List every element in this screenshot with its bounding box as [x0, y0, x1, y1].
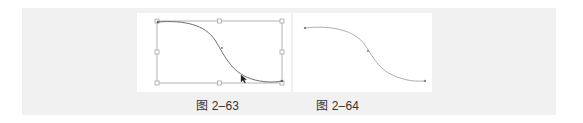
handle-bottom-middle[interactable]	[218, 81, 222, 85]
handle-middle-right[interactable]	[280, 50, 284, 54]
handle-top-middle[interactable]	[218, 19, 222, 23]
figure-caption-2-64: 图 2–64	[316, 96, 359, 113]
s-curve-path-selected[interactable]	[158, 22, 282, 82]
curve-figures	[0, 0, 583, 123]
transform-bounding-box[interactable]	[155, 19, 284, 85]
anchor-point[interactable]	[221, 47, 223, 49]
handle-bottom-left[interactable]	[155, 81, 159, 85]
handle-middle-left[interactable]	[155, 50, 159, 54]
figure-caption-2-63: 图 2–63	[196, 96, 239, 113]
anchor-point[interactable]	[157, 21, 160, 24]
anchor-point[interactable]	[424, 80, 426, 82]
handle-top-right[interactable]	[280, 19, 284, 23]
anchor-point[interactable]	[281, 80, 284, 83]
s-curve-path[interactable]	[305, 27, 425, 81]
anchor-point[interactable]	[367, 50, 369, 52]
anchor-point[interactable]	[304, 27, 306, 29]
